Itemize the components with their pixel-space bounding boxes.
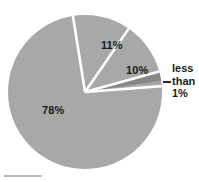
callout-line-1: less — [172, 62, 195, 75]
scan-artifact-line — [4, 175, 42, 177]
pie-label-78-percent: 78% — [42, 104, 64, 116]
callout-line-2: than — [172, 75, 195, 88]
callout-line-3: 1% — [172, 87, 195, 100]
pie-label-10-percent: 10% — [126, 64, 148, 76]
pie-chart-figure: 78% 11% 10% less than 1% — [0, 0, 199, 182]
pie-chart-graphic — [0, 0, 199, 182]
pie-callout-less-than-one-percent: less than 1% — [172, 62, 195, 100]
callout-leader-line — [163, 81, 171, 83]
pie-label-11-percent: 11% — [101, 39, 123, 51]
